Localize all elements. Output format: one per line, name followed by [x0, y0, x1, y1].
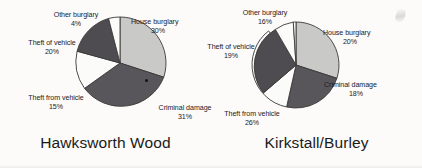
label-theft-of-vehicle-text: Theft of vehicle: [207, 43, 254, 51]
label-theft-of-vehicle-percent: 20%: [8, 48, 96, 57]
label-other-burglary: Other burglary 16%: [219, 9, 311, 26]
label-theft-from-vehicle: Theft from vehicle 15%: [8, 94, 104, 111]
scanned-page-surface: Other burglary 4% House burglary 30% The…: [0, 0, 422, 168]
label-house-burglary: House burglary 30%: [131, 18, 221, 35]
label-other-burglary-text: Other burglary: [243, 9, 288, 17]
label-house-burglary-percent: 30%: [131, 27, 185, 36]
chart-panel-hawksworth-wood: Other burglary 4% House burglary 30% The…: [0, 0, 211, 168]
label-theft-from-vehicle-text: Theft from vehicle: [224, 110, 279, 118]
label-house-burglary-text: House burglary: [323, 29, 370, 37]
label-other-burglary-text: Other burglary: [54, 11, 99, 19]
label-theft-of-vehicle-text: Theft of vehicle: [28, 39, 75, 47]
chart-title-hawksworth-wood: Hawksworth Wood: [0, 134, 211, 152]
label-theft-from-vehicle: Theft from vehicle 26%: [204, 110, 300, 127]
chart-panel-kirkstall-burley: Other burglary 16% House burglary 20% Th…: [211, 0, 422, 168]
chart-title-kirkstall-burley: Kirkstall/Burley: [211, 134, 422, 152]
label-other-burglary: Other burglary 4%: [30, 11, 122, 28]
scan-edge-shadow: [0, 165, 422, 168]
label-house-burglary-percent: 20%: [323, 38, 377, 47]
label-theft-of-vehicle: Theft of vehicle 20%: [8, 39, 96, 56]
label-theft-from-vehicle-percent: 15%: [8, 103, 104, 112]
label-criminal-damage-text: Criminal damage: [324, 81, 377, 89]
label-other-burglary-percent: 16%: [219, 18, 311, 27]
label-other-burglary-percent: 4%: [30, 20, 122, 29]
label-criminal-damage-percent: 18%: [324, 90, 388, 99]
label-theft-of-vehicle-percent: 19%: [187, 52, 275, 61]
label-theft-from-vehicle-percent: 26%: [204, 119, 300, 128]
label-theft-from-vehicle-text: Theft from vehicle: [28, 94, 83, 102]
label-criminal-damage: Criminal damage 18%: [324, 81, 420, 98]
label-theft-of-vehicle: Theft of vehicle 19%: [187, 43, 275, 60]
label-house-burglary: House burglary 20%: [323, 29, 415, 46]
scan-speck: [145, 79, 148, 82]
label-house-burglary-text: House burglary: [131, 18, 178, 26]
